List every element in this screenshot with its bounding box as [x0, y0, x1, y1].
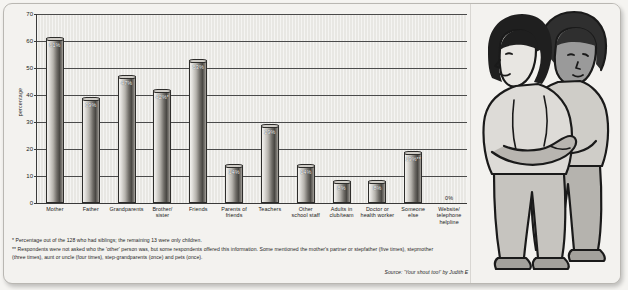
bar: 61% — [46, 38, 64, 203]
y-axis-tick-label: 60 — [26, 38, 33, 44]
bar-body: 47% — [118, 76, 136, 203]
bar-value-label: 39% — [83, 102, 99, 108]
bar-value-label: 61% — [47, 42, 63, 48]
bar-body: 53% — [189, 60, 207, 203]
two-people-hugging-svg — [470, 4, 620, 284]
bar-cap — [189, 59, 207, 63]
bar-body: 42%* — [153, 90, 171, 203]
y-axis-tick-label: 0 — [30, 200, 33, 206]
bar: 14% — [297, 165, 315, 203]
bar-body: 61% — [46, 38, 64, 203]
bar: 14% — [225, 165, 243, 203]
chart-card: percentage 010203040506070 61%39%47%42%*… — [3, 3, 621, 284]
x-axis-label: Website/telephone helpline — [428, 206, 470, 225]
bar-body: 8% — [368, 181, 386, 203]
footnote-1: * Percentage out of the 128 who had sibl… — [12, 237, 452, 245]
bar-cap — [82, 97, 100, 101]
y-axis-tick-label: 70 — [26, 11, 33, 17]
y-axis-title: percentage — [17, 72, 23, 132]
bar-body: 19%** — [404, 152, 422, 203]
x-axis-label-line: sister — [142, 212, 184, 218]
bar-body: 14% — [297, 165, 315, 203]
y-axis-tick-label: 10 — [26, 173, 33, 179]
illustration-two-people-hugging-icon — [470, 4, 620, 284]
bar-value-label: 29% — [262, 129, 278, 135]
bar-cap — [368, 180, 386, 184]
bar: 47% — [118, 76, 136, 203]
footnote-2: ** Respondents were not asked who the 'o… — [12, 246, 452, 254]
bar-body: 29% — [261, 125, 279, 203]
bar-cap — [153, 89, 171, 93]
y-axis-tick-label: 30 — [26, 119, 33, 125]
bar-cap — [297, 164, 315, 168]
bar-series: 61%39%47%42%*53%14%29%14%8%8%19%**0% — [37, 14, 467, 203]
bar: 42%* — [153, 90, 171, 203]
bar-cap — [333, 180, 351, 184]
illustration-divider — [470, 4, 471, 284]
bar-value-label: 0% — [440, 195, 458, 201]
footnote-3: (three times), aunt or uncle (four times… — [12, 254, 452, 262]
bar: 53% — [189, 60, 207, 203]
bar: 29% — [261, 125, 279, 203]
bar-cap — [404, 151, 422, 155]
bar-cap — [46, 37, 64, 41]
bar-value-label: 19%** — [405, 156, 421, 162]
bar-value-label: 14% — [226, 169, 242, 175]
bar-cap — [261, 124, 279, 128]
bar-value-label: 53% — [190, 64, 206, 70]
bar-value-label: 47% — [119, 80, 135, 86]
y-axis-tick-mark — [34, 203, 37, 204]
bar-cap — [225, 164, 243, 168]
bar-body: 8% — [333, 181, 351, 203]
y-axis-tick-label: 50 — [26, 65, 33, 71]
bar-body: 14% — [225, 165, 243, 203]
bar-value-label: 14% — [298, 169, 314, 175]
y-axis-tick-label: 40 — [26, 92, 33, 98]
y-axis-tick-label: 20 — [26, 146, 33, 152]
bar: 8% — [368, 181, 386, 203]
bar-value-label: 8% — [369, 185, 385, 191]
bar-value-label: 42%* — [154, 94, 170, 100]
bar-value-label: 8% — [334, 185, 350, 191]
bar: 19%** — [404, 152, 422, 203]
x-axis-label-line: friends — [213, 212, 255, 218]
bar: 8% — [333, 181, 351, 203]
bar: 39% — [82, 98, 100, 203]
screenshot-root: percentage 010203040506070 61%39%47%42%*… — [0, 0, 628, 290]
x-axis-label-line: telephone helpline — [428, 212, 470, 225]
bar-cap — [118, 75, 136, 79]
footnotes: * Percentage out of the 128 who had sibl… — [12, 237, 452, 263]
bar-chart: percentage 010203040506070 61%39%47%42%*… — [4, 4, 476, 236]
bar-body: 39% — [82, 98, 100, 203]
plot-area: 010203040506070 61%39%47%42%*53%14%29%14… — [36, 14, 467, 204]
